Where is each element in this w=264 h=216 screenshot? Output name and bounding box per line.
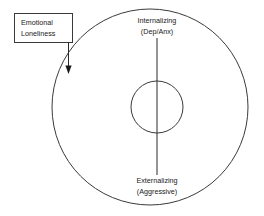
annotation-arrow-head (65, 66, 71, 75)
annotation-box-label-line2: Loneliness (21, 29, 56, 38)
axis-top-label-line1: Internalizing (138, 16, 177, 25)
axis-top-label-line2: (Dep/Anx) (141, 27, 173, 36)
axis-bottom-label-line2: (Aggressive) (137, 187, 177, 196)
annotation-box-label-line1: Emotional (21, 18, 53, 27)
axis-bottom-label-line1: Externalizing (136, 176, 177, 185)
diagram-canvas: Internalizing (Dep/Anx) Externalizing (A… (0, 0, 264, 216)
diagram-svg: Internalizing (Dep/Anx) Externalizing (A… (0, 0, 264, 216)
